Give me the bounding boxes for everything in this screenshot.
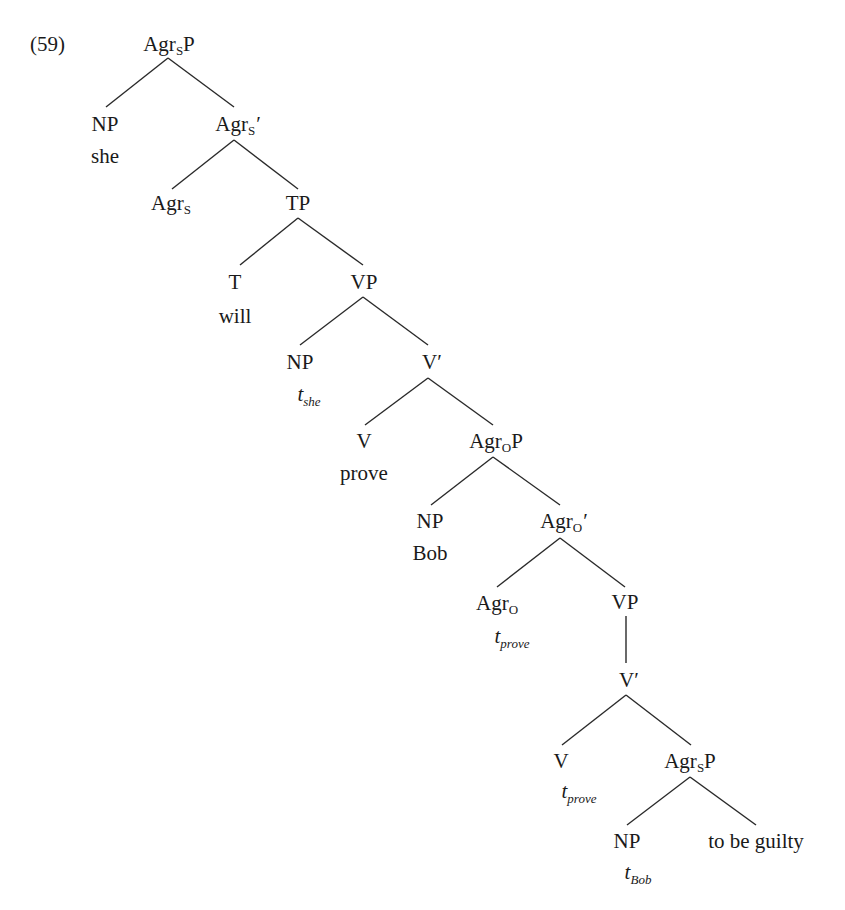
branch	[365, 378, 428, 425]
trace-subscript: Bob	[630, 872, 651, 887]
node-subscript: O	[573, 520, 582, 535]
word-will: will	[219, 306, 252, 327]
node-prime: ′	[583, 509, 588, 533]
node-subscript: O	[509, 602, 518, 617]
node-prime: ′	[256, 112, 261, 136]
predicate-to-be-guilty: to be guilty	[708, 831, 804, 852]
branch	[497, 538, 560, 587]
node-t: T	[229, 272, 242, 293]
branch	[690, 777, 756, 825]
branch	[106, 58, 168, 107]
node-agro-bar: AgrO′	[540, 511, 588, 532]
branch	[172, 140, 234, 189]
branch	[493, 457, 560, 505]
node-v-bar-2: V′	[619, 670, 639, 691]
node-agrop: AgrOP	[469, 431, 523, 452]
trace-prove-1: tprove	[495, 626, 530, 647]
word-she: she	[91, 146, 119, 167]
branch	[562, 695, 626, 745]
node-cat: Agr	[469, 429, 502, 453]
node-np-trace-bob: NP	[614, 831, 641, 852]
node-cat: Agr	[664, 749, 697, 773]
trace-subscript: prove	[500, 636, 529, 651]
node-cat: Agr	[476, 591, 509, 615]
node-v-2: V	[553, 751, 568, 772]
node-np-object: NP	[417, 511, 444, 532]
word-bob: Bob	[412, 543, 447, 564]
trace-she: tshe	[297, 384, 320, 405]
branch	[363, 297, 428, 345]
node-agrs-head: AgrS	[151, 193, 191, 214]
node-suffix: P	[704, 749, 716, 773]
trace-t: t	[562, 779, 568, 803]
node-agro-head: AgrO	[476, 593, 518, 614]
node-subscript: S	[697, 760, 704, 775]
node-subscript: S	[248, 123, 255, 138]
branch	[298, 218, 363, 265]
node-cat: Agr	[151, 191, 184, 215]
branch	[428, 378, 493, 425]
trace-subscript: prove	[567, 791, 596, 806]
tree-branches	[0, 0, 845, 910]
node-vp-2: VP	[612, 592, 639, 613]
node-agrsp-embedded: AgrSP	[664, 751, 716, 772]
node-subscript: S	[184, 202, 191, 217]
node-vp-1: VP	[351, 272, 378, 293]
node-agrsp-root: AgrSP	[143, 34, 195, 55]
word-prove: prove	[340, 463, 388, 484]
node-cat: Agr	[215, 112, 248, 136]
node-cat: Agr	[540, 509, 573, 533]
trace-t: t	[625, 860, 631, 884]
node-subscript: S	[176, 43, 183, 58]
branch	[168, 58, 234, 107]
node-v-1: V	[356, 431, 371, 452]
node-suffix: P	[511, 429, 523, 453]
branch	[431, 457, 493, 505]
branch	[234, 140, 298, 189]
branch	[627, 777, 690, 825]
branch	[626, 695, 691, 745]
node-cat: Agr	[143, 32, 176, 56]
trace-t: t	[297, 382, 303, 406]
branch	[240, 218, 298, 265]
node-v-bar-1: V′	[422, 352, 442, 373]
trace-bob: tBob	[625, 862, 652, 883]
node-np-trace-she: NP	[287, 352, 314, 373]
trace-t: t	[495, 624, 501, 648]
node-np-subject: NP	[92, 114, 119, 135]
node-subscript: O	[502, 440, 511, 455]
node-tp: TP	[286, 193, 311, 214]
trace-prove-2: tprove	[562, 781, 597, 802]
branch	[300, 297, 363, 345]
node-suffix: P	[183, 32, 195, 56]
branch	[560, 538, 625, 587]
trace-subscript: she	[303, 394, 320, 409]
node-agrs-bar: AgrS′	[215, 114, 261, 135]
example-number: (59)	[30, 34, 65, 55]
